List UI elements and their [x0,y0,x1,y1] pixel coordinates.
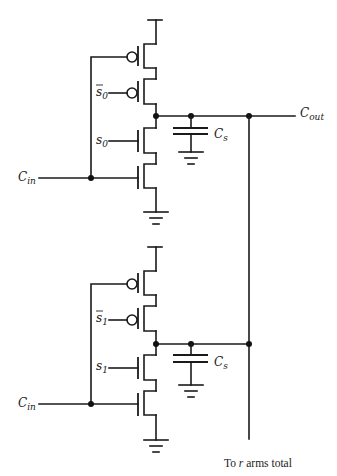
pmos-transistor-1 [127,44,156,68]
circuit-diagram: Cin s0 s0 Cs Cout [0,0,337,476]
capacitor-icon [173,116,208,152]
junction-dot [153,113,159,119]
nmos-transistor-1 [138,128,156,153]
junction-dot [88,175,94,181]
pmos-transistor-1 [127,271,156,295]
junction-dot [246,341,252,347]
ground-icon [179,385,203,397]
junction-dot [88,401,94,407]
cin-label: Cin [18,396,36,412]
nmos-transistor-2 [138,164,156,189]
ground-icon [144,440,168,452]
cin-to-pmos-wire [91,284,127,404]
capacitor-icon [173,344,208,385]
pmos-transistor-2 [127,79,156,104]
nmos-transistor-1 [138,355,156,380]
nmos-transistor-2 [138,391,156,416]
s0-bar-label: s0 [96,85,108,101]
arm-1: Cin s1 s1 Cs [18,247,252,452]
s0-label: s0 [96,133,108,149]
junction-dot [153,341,159,347]
ground-icon [144,212,168,224]
cin-label: Cin [18,170,36,186]
cout-label: Cout [300,106,324,122]
s1-bar-label: s1 [96,311,108,327]
arm-0: Cin s0 s0 Cs Cout [18,20,324,224]
cs-label: Cs [214,355,228,371]
cs-label: Cs [214,127,228,143]
pmos-transistor-2 [127,306,156,331]
s1-label: s1 [96,359,108,375]
bus-caption: To r arms total [224,457,292,469]
cin-to-pmos-wire [91,57,127,178]
ground-icon [179,152,203,164]
